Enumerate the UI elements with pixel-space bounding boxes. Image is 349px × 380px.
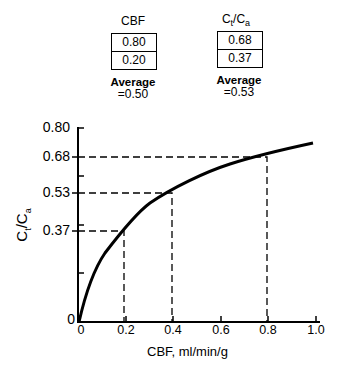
y-label-sep: /C <box>13 213 30 228</box>
dashed-guides <box>78 157 267 322</box>
x-tick-label-0: 0 <box>66 323 96 337</box>
y-tick-label-0.68: 0.68 <box>30 148 70 164</box>
y-tick-label-0.80: 0.80 <box>30 119 70 135</box>
y-label-c: C <box>13 231 30 242</box>
x-tick-label-0.4: 0.4 <box>158 323 188 337</box>
data-curve <box>79 143 313 322</box>
x-axis-label: CBF, ml/min/g <box>147 344 228 359</box>
x-tick-label-0.8: 0.8 <box>253 323 283 337</box>
y-label-sub-a: a <box>23 208 33 213</box>
y-tick-label-0.37: 0.37 <box>30 222 70 238</box>
y-label-sub-t: t <box>23 228 33 231</box>
x-tick-label-0.2: 0.2 <box>111 323 141 337</box>
y-axis-label: Ct/Ca <box>13 208 33 241</box>
x-tick-label-1.0: 1.0 <box>301 323 331 337</box>
x-tick-label-0.6: 0.6 <box>206 323 236 337</box>
y-tick-label-0.53: 0.53 <box>30 184 70 200</box>
